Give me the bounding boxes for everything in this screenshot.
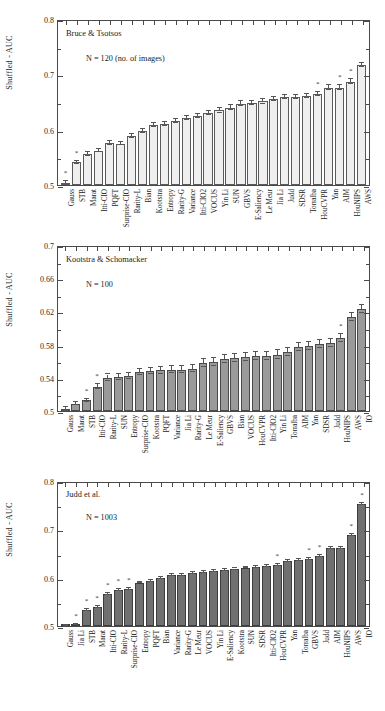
x-tick: Entropy bbox=[134, 629, 145, 630]
bar bbox=[135, 372, 144, 411]
y-axis-tick bbox=[58, 380, 63, 381]
error-bar-cap bbox=[85, 155, 90, 156]
bar bbox=[93, 387, 102, 411]
error-bar-cap bbox=[349, 320, 354, 321]
significance-marker: * bbox=[360, 493, 364, 498]
x-tick-label: IO bbox=[366, 415, 374, 422]
x-axis-top-tick bbox=[278, 483, 279, 487]
error-bar bbox=[213, 358, 214, 362]
error-bar bbox=[330, 339, 331, 343]
x-tick: Torralba bbox=[302, 188, 313, 189]
x-tick-label: SUN bbox=[248, 630, 256, 644]
error-bar bbox=[306, 94, 307, 96]
error-bar-cap bbox=[95, 383, 100, 384]
error-bar-cap bbox=[179, 575, 184, 576]
bar bbox=[302, 96, 311, 185]
x-axis-top-tick bbox=[310, 247, 311, 251]
y-axis-minor-tick bbox=[58, 604, 61, 605]
x-axis-top-tick bbox=[215, 247, 216, 251]
x-tick: SUN bbox=[112, 414, 123, 415]
error-bar-cap bbox=[105, 592, 110, 593]
x-axis-top-tick bbox=[353, 247, 354, 251]
x-tick-label: Rarity-L bbox=[110, 415, 118, 439]
error-bar-cap bbox=[96, 151, 101, 152]
error-bar-cap bbox=[169, 573, 174, 574]
x-tick-label: VOCUS bbox=[211, 189, 219, 213]
error-bar-cap bbox=[84, 608, 89, 609]
x-tick: Kootstra bbox=[144, 414, 155, 415]
error-bar-cap bbox=[63, 180, 68, 181]
x-tick-label: Gauss bbox=[68, 189, 76, 206]
x-axis-top-tick bbox=[330, 21, 331, 25]
x-axis-top-tick bbox=[172, 247, 173, 251]
x-tick-label: Torralba bbox=[291, 415, 299, 439]
y-axis-tick bbox=[364, 280, 369, 281]
error-bar-cap bbox=[264, 564, 269, 565]
x-axis-top-tick bbox=[363, 21, 364, 25]
error-bar-cap bbox=[296, 342, 301, 343]
y-axis-minor-tick bbox=[366, 396, 369, 397]
x-tick-label: Marat bbox=[78, 415, 86, 432]
x-axis-top-tick bbox=[99, 21, 100, 25]
x-axis-top-tick bbox=[286, 21, 287, 25]
error-bar-cap bbox=[243, 352, 248, 353]
x-tick-label: AIM bbox=[334, 630, 342, 644]
x-tick: Le Meur bbox=[198, 414, 209, 415]
x-axis-top-tick bbox=[321, 247, 322, 251]
bar bbox=[188, 573, 197, 626]
y-axis-minor-tick bbox=[58, 363, 61, 364]
bar-item bbox=[230, 247, 241, 411]
y-axis-minor-tick bbox=[366, 264, 369, 265]
x-tick: AIM bbox=[335, 188, 346, 189]
x-axis-top-tick bbox=[193, 247, 194, 251]
x-axis-top-tick bbox=[364, 247, 365, 251]
x-tick: Yan bbox=[324, 188, 335, 189]
bar bbox=[83, 154, 92, 185]
x-tick: Gauss bbox=[59, 188, 70, 189]
x-tick: Yin Li bbox=[213, 188, 224, 189]
error-bar-cap bbox=[328, 338, 333, 339]
bar-item bbox=[208, 247, 219, 411]
error-bar bbox=[208, 111, 209, 113]
x-tick-label: Rarity-G bbox=[185, 630, 193, 655]
x-axis-top-tick bbox=[97, 247, 98, 251]
bar-item: * bbox=[102, 483, 113, 626]
plot-area-panel-2: Judd et al. N = 1003 *********** 0.50.60… bbox=[57, 482, 370, 627]
x-axis-top-tick bbox=[264, 21, 265, 25]
x-tick-label: SUN bbox=[233, 189, 241, 203]
x-tick: Gauss bbox=[59, 414, 70, 415]
bar-item bbox=[236, 21, 247, 185]
x-tick: Bian bbox=[230, 414, 241, 415]
error-bar bbox=[251, 101, 252, 103]
x-tick: HouNIPS bbox=[336, 629, 347, 630]
bar bbox=[156, 578, 165, 626]
x-axis-top-tick bbox=[352, 21, 353, 25]
error-bar-cap bbox=[158, 578, 163, 579]
error-bar-cap bbox=[282, 98, 287, 99]
x-tick: Entropy bbox=[123, 414, 134, 415]
bar-item: * bbox=[335, 247, 346, 411]
bar bbox=[149, 125, 158, 185]
bar bbox=[167, 575, 176, 626]
bar bbox=[135, 583, 144, 627]
error-bar bbox=[224, 355, 225, 359]
bar-item bbox=[166, 483, 177, 626]
x-tick: GBVS bbox=[219, 414, 230, 415]
error-bar-cap bbox=[222, 570, 227, 571]
error-bar-cap bbox=[74, 160, 79, 161]
bar bbox=[241, 357, 250, 411]
error-bar bbox=[219, 108, 220, 110]
y-axis-tick-label: 0.8 bbox=[28, 16, 54, 25]
y-axis-tick-label: 0.66 bbox=[28, 275, 54, 284]
error-bar bbox=[350, 79, 351, 81]
x-axis-top-tick bbox=[204, 247, 205, 251]
bar-item bbox=[198, 247, 209, 411]
x-tick: Marat bbox=[91, 629, 102, 630]
error-bar-cap bbox=[317, 347, 322, 348]
x-tick-label: PQFT bbox=[153, 630, 161, 647]
error-bar bbox=[351, 313, 352, 317]
x-tick: Entropy bbox=[158, 188, 169, 189]
x-tick: Le Meur bbox=[187, 629, 198, 630]
error-bar-cap bbox=[162, 125, 167, 126]
error-bar-cap bbox=[148, 581, 153, 582]
